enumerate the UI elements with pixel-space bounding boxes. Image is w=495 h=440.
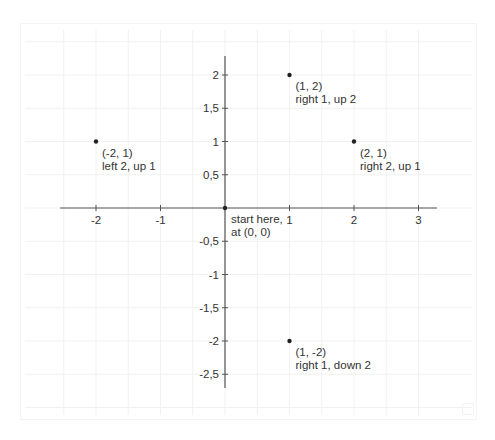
y-tick-label: -2,5 bbox=[199, 368, 219, 380]
x-tick-label: -2 bbox=[91, 214, 101, 226]
y-tick-label: 2 bbox=[213, 69, 219, 81]
data-point bbox=[287, 339, 291, 343]
y-tick-label: 0,5 bbox=[203, 169, 219, 181]
x-tick-label: 3 bbox=[415, 214, 421, 226]
point-label-coordinates: (2, 1) bbox=[360, 147, 387, 159]
point-label-description: at (0, 0) bbox=[231, 226, 271, 238]
data-point bbox=[94, 139, 98, 143]
point-label-coordinates: (-2, 1) bbox=[102, 147, 133, 159]
point-label-coordinates: start here, bbox=[231, 213, 283, 225]
y-tick-label: -1 bbox=[209, 269, 219, 281]
y-tick-label: -0,5 bbox=[199, 235, 219, 247]
point-label-description: right 1, down 2 bbox=[296, 359, 371, 371]
point-label-coordinates: (1, 2) bbox=[296, 80, 323, 92]
point-label-coordinates: (1, -2) bbox=[296, 346, 327, 358]
y-tick-label: 1 bbox=[213, 136, 219, 148]
y-tick-label: -1,5 bbox=[199, 302, 219, 314]
data-point bbox=[223, 206, 227, 210]
x-tick-label: 1 bbox=[286, 214, 292, 226]
data-point bbox=[352, 139, 356, 143]
y-tick-label: -2 bbox=[209, 335, 219, 347]
watermark-icon bbox=[462, 403, 474, 415]
data-point bbox=[287, 73, 291, 77]
point-label-description: right 2, up 1 bbox=[360, 160, 421, 172]
point-label-description: right 1, up 2 bbox=[296, 93, 357, 105]
x-tick-label: 2 bbox=[351, 214, 357, 226]
coordinate-plane: -2-112321,510,5-0,5-1-1,5-2-2,5 start he… bbox=[0, 0, 495, 440]
x-tick-label: -1 bbox=[155, 214, 165, 226]
y-tick-label: 1,5 bbox=[203, 102, 219, 114]
point-label-description: left 2, up 1 bbox=[102, 160, 156, 172]
